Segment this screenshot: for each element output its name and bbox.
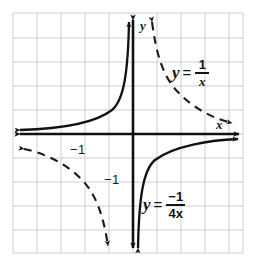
axis-lines: [20, 20, 239, 248]
y-axis-label: y: [140, 19, 146, 32]
graph-figure: y x −1 −1 y = 1 x y = −1 4x: [0, 0, 253, 273]
fraction-negative-one-over-four-x: −1 4x: [166, 190, 185, 220]
fraction-denominator: 4x: [166, 206, 184, 220]
x-axis-tick-label-negative-one: −1: [70, 143, 86, 156]
equation-label-one-over-x: y = 1 x: [172, 58, 209, 88]
x-axis-label: x: [216, 118, 223, 131]
equation-lhs-y: y: [172, 63, 180, 83]
fraction-numerator: 1: [197, 58, 208, 72]
fraction-denominator: x: [197, 74, 208, 88]
equals-sign: =: [183, 64, 192, 81]
y-axis-tick-label-negative-one: −1: [104, 173, 120, 186]
equation-label-negative-one-over-four-x: y = −1 4x: [143, 190, 185, 220]
equals-sign: =: [154, 196, 163, 213]
fraction-numerator: −1: [166, 190, 185, 204]
equation-lhs-y: y: [143, 195, 151, 215]
fraction-one-over-x: 1 x: [195, 58, 209, 88]
coordinate-plane: [0, 0, 253, 273]
